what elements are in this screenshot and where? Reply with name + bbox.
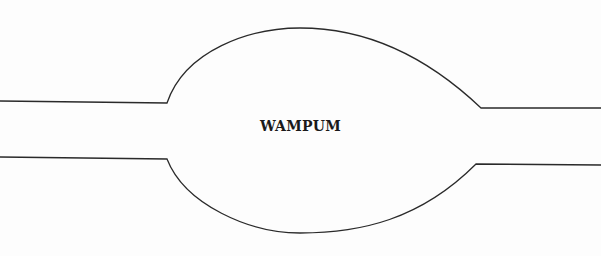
- left-bottom-line: [0, 157, 601, 233]
- diagram-canvas: WAMPUM: [0, 0, 601, 256]
- diagram-label: WAMPUM: [0, 118, 601, 134]
- left-top-line: [0, 28, 601, 108]
